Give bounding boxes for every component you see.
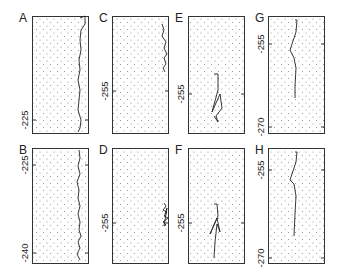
panel-a: A-225: [19, 11, 89, 134]
panel-f: F-255: [175, 143, 245, 264]
figure-canvas: A-225B-225-240C-255D-255E-255F-255G-255-…: [0, 0, 343, 277]
stipple-field: [112, 16, 169, 134]
panel-g: G-255-270: [255, 11, 325, 137]
axis-tick-label: -255: [175, 84, 186, 103]
axis-tick-label: -225: [19, 155, 30, 174]
panel-label: E: [175, 11, 183, 25]
stipple-field: [188, 148, 245, 264]
stipple-field: [112, 148, 169, 264]
panel-label: C: [99, 11, 108, 25]
panel-label: H: [255, 143, 264, 157]
axis-tick-label: -270: [255, 248, 266, 267]
panel-label: A: [19, 11, 27, 25]
panel-label: B: [19, 143, 27, 157]
axis-tick-label: -255: [99, 213, 110, 232]
axis-tick-label: -255: [175, 213, 186, 232]
axis-tick-label: -255: [99, 81, 110, 100]
panel-e: E-255: [175, 11, 245, 134]
stipple-field: [268, 16, 325, 134]
axis-tick-label: -255: [255, 34, 266, 53]
panel-h: H-255-270: [255, 143, 325, 268]
panel-b: B-225-240: [19, 143, 89, 264]
panel-label: F: [175, 143, 182, 157]
stipple-field: [268, 148, 325, 264]
panel-c: C-255: [99, 11, 169, 134]
axis-tick-label: -255: [255, 160, 266, 179]
panel-label: G: [255, 11, 264, 25]
panel-grid: A-225B-225-240C-255D-255E-255F-255G-255-…: [19, 11, 325, 268]
axis-tick-label: -270: [255, 117, 266, 136]
panel-d: D-255: [99, 143, 169, 264]
axis-tick-label: -240: [19, 243, 30, 262]
axis-tick-label: -225: [19, 110, 30, 129]
panel-label: D: [99, 143, 108, 157]
